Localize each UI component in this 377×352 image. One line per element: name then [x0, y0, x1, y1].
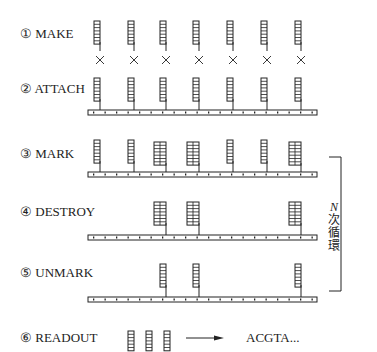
surface-tick — [139, 174, 140, 176]
surface-tick — [185, 237, 186, 239]
surface-tick — [208, 174, 209, 176]
surface-tick — [277, 299, 278, 301]
surface-tick — [243, 299, 244, 301]
surface-bar — [88, 235, 317, 240]
cross-icon — [297, 56, 305, 64]
surface-tick — [208, 299, 209, 301]
dna-computing-diagram: ① MAKE ② ATTACH ③ MARK ④ DESTROY ⑤ UNMAR… — [0, 0, 377, 352]
surface-tick — [231, 112, 232, 114]
surface-tick — [93, 299, 94, 301]
surface-tick — [289, 299, 290, 301]
surface-tick — [116, 237, 117, 239]
surface-tick — [185, 299, 186, 301]
step-unmark-label: ⑤ UNMARK — [20, 266, 93, 280]
surface-tick — [231, 174, 232, 176]
surface-tick — [174, 174, 175, 176]
surface-tick — [300, 174, 301, 176]
surface-tick — [289, 237, 290, 239]
surface-tick — [116, 174, 117, 176]
surface-tick — [151, 174, 152, 176]
surface-tick — [139, 299, 140, 301]
surface-tick — [105, 237, 106, 239]
surface-tick — [266, 299, 267, 301]
surface-tick — [254, 112, 255, 114]
surface-tick — [116, 112, 117, 114]
surface-tick — [151, 237, 152, 239]
surface-tick — [197, 237, 198, 239]
surface-tick — [185, 112, 186, 114]
surface-tick — [139, 112, 140, 114]
diagram-graphics — [0, 0, 377, 352]
surface-tick — [128, 299, 129, 301]
surface-tick — [231, 237, 232, 239]
surface-tick — [128, 237, 129, 239]
loop-count-label: N 次 循 環 — [327, 201, 341, 253]
surface-tick — [162, 237, 163, 239]
surface-tick — [231, 299, 232, 301]
surface-tick — [105, 299, 106, 301]
cross-icon — [162, 56, 170, 64]
surface-tick — [300, 112, 301, 114]
surface-tick — [243, 112, 244, 114]
surface-tick — [128, 174, 129, 176]
surface-tick — [174, 237, 175, 239]
surface-tick — [220, 299, 221, 301]
surface-tick — [254, 237, 255, 239]
step-make-label: ① MAKE — [20, 27, 74, 41]
surface-tick — [174, 112, 175, 114]
surface-tick — [116, 299, 117, 301]
surface-tick — [151, 299, 152, 301]
surface-tick — [197, 112, 198, 114]
surface-tick — [277, 174, 278, 176]
surface-tick — [162, 174, 163, 176]
surface-tick — [93, 174, 94, 176]
surface-tick — [300, 237, 301, 239]
cross-icon — [130, 56, 138, 64]
step-readout-label: ⑥ READOUT — [20, 331, 97, 345]
cross-icon — [229, 56, 237, 64]
surface-tick — [208, 237, 209, 239]
surface-tick — [139, 237, 140, 239]
surface-tick — [312, 237, 313, 239]
cross-icon — [195, 56, 203, 64]
surface-tick — [254, 299, 255, 301]
surface-tick — [289, 174, 290, 176]
cross-icon — [96, 56, 104, 64]
surface-tick — [312, 299, 313, 301]
surface-tick — [277, 112, 278, 114]
surface-tick — [105, 112, 106, 114]
readout-result: ACGTA... — [246, 331, 300, 345]
surface-tick — [220, 237, 221, 239]
surface-tick — [93, 237, 94, 239]
loop-char-3: 環 — [327, 240, 341, 253]
step-destroy-label: ④ DESTROY — [20, 205, 95, 219]
surface-tick — [243, 237, 244, 239]
cross-icon — [263, 56, 271, 64]
step-mark-label: ③ MARK — [20, 147, 74, 161]
surface-tick — [197, 174, 198, 176]
surface-tick — [128, 112, 129, 114]
surface-tick — [300, 299, 301, 301]
surface-tick — [220, 112, 221, 114]
surface-tick — [185, 174, 186, 176]
surface-tick — [220, 174, 221, 176]
surface-tick — [243, 174, 244, 176]
surface-tick — [312, 112, 313, 114]
surface-tick — [162, 299, 163, 301]
surface-bar — [88, 172, 317, 177]
surface-bar — [88, 110, 317, 115]
surface-tick — [266, 174, 267, 176]
surface-tick — [93, 112, 94, 114]
surface-tick — [277, 237, 278, 239]
surface-tick — [312, 174, 313, 176]
surface-tick — [266, 237, 267, 239]
surface-tick — [151, 112, 152, 114]
surface-tick — [208, 112, 209, 114]
surface-tick — [254, 174, 255, 176]
surface-tick — [105, 174, 106, 176]
surface-tick — [266, 112, 267, 114]
arrow-head-icon — [214, 336, 224, 341]
surface-tick — [197, 299, 198, 301]
surface-tick — [162, 112, 163, 114]
surface-tick — [289, 112, 290, 114]
